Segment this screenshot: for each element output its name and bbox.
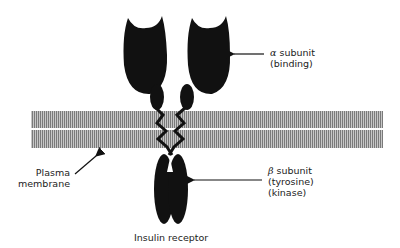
insulin-receptor-diagram: [0, 0, 400, 248]
beta-subunit-label: β subunit (tyrosine) (kinase): [268, 165, 314, 198]
alpha-subunit-right: [180, 16, 230, 110]
plasma-membrane-label: Plasma membrane: [18, 167, 70, 189]
alpha-subunit-left: [124, 16, 168, 110]
alpha-subunit-label: α subunit (binding): [270, 47, 315, 69]
membrane-arrow: [75, 156, 96, 174]
beta-symbol: β: [268, 165, 274, 176]
plasma-membrane: [31, 111, 383, 148]
diagram-caption: Insulin receptor: [134, 232, 208, 243]
beta-subunit: [154, 154, 188, 224]
alpha-symbol: α: [270, 47, 276, 58]
